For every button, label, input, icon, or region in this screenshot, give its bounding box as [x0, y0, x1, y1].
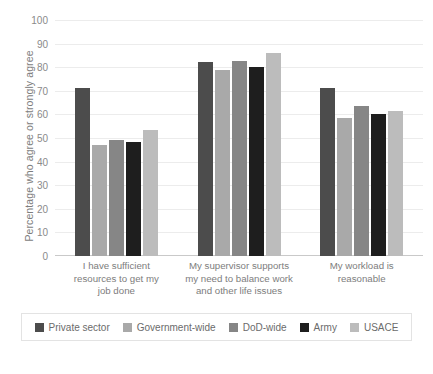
- legend-swatch-icon: [123, 323, 132, 332]
- y-axis-tick-label: 70: [37, 85, 48, 96]
- legend-item[interactable]: Army: [300, 322, 337, 333]
- bar: [92, 145, 107, 256]
- bar-group: [300, 20, 423, 256]
- legend-swatch-icon: [350, 323, 359, 332]
- bar: [249, 67, 264, 256]
- bar: [320, 88, 335, 256]
- y-axis-tick-label: 50: [37, 133, 48, 144]
- bar: [371, 114, 386, 256]
- y-axis-tick-label: 10: [37, 227, 48, 238]
- legend-label: DoD-wide: [243, 322, 287, 333]
- bar: [109, 140, 124, 256]
- x-axis-category-labels: I have sufficientresources to get myjob …: [55, 260, 423, 298]
- y-axis-tick-label: 40: [37, 156, 48, 167]
- bar-groups: [55, 20, 423, 256]
- bar: [75, 88, 90, 256]
- bar: [388, 111, 403, 256]
- legend-label: Government-wide: [137, 322, 216, 333]
- category-label-line: My supervisor supports: [180, 260, 299, 273]
- category-label-line: my need to balance work: [180, 273, 299, 286]
- x-axis-category-label: I have sufficientresources to get myjob …: [55, 260, 178, 298]
- category-label-line: My workload is: [302, 260, 421, 273]
- legend-label: USACE: [364, 322, 398, 333]
- x-axis-category-label: My supervisor supportsmy need to balance…: [178, 260, 301, 298]
- y-axis-tick-label: 90: [37, 38, 48, 49]
- y-axis-tick-label: 20: [37, 203, 48, 214]
- legend-swatch-icon: [229, 323, 238, 332]
- legend-item[interactable]: Government-wide: [123, 322, 216, 333]
- bar-chart-figure: Percentage who agree or strongly agree 1…: [0, 0, 433, 374]
- legend-swatch-icon: [300, 323, 309, 332]
- bar: [266, 53, 281, 256]
- legend-swatch-icon: [35, 323, 44, 332]
- category-label-line: I have sufficient: [57, 260, 176, 273]
- bar: [354, 106, 369, 256]
- category-label-line: job done: [57, 285, 176, 298]
- y-axis-title: Percentage who agree or strongly agree: [23, 21, 35, 271]
- bar: [215, 70, 230, 256]
- category-label-line: reasonable: [302, 273, 421, 286]
- category-label-line: resources to get my: [57, 273, 176, 286]
- y-axis-tick-label: 60: [37, 109, 48, 120]
- bar: [337, 118, 352, 256]
- legend-label: Army: [314, 322, 337, 333]
- legend-item[interactable]: DoD-wide: [229, 322, 287, 333]
- bar: [126, 142, 141, 256]
- bar: [143, 130, 158, 256]
- legend-item[interactable]: Private sector: [35, 322, 110, 333]
- chart-legend: Private sectorGovernment-wideDoD-wideArm…: [21, 313, 412, 341]
- bar-group: [55, 20, 178, 256]
- legend-item[interactable]: USACE: [350, 322, 398, 333]
- legend-label: Private sector: [49, 322, 110, 333]
- y-axis-tick-label: 100: [31, 15, 48, 26]
- bar: [232, 61, 247, 256]
- plot-area: 1009080706050403020100: [55, 20, 423, 256]
- bar-group: [178, 20, 301, 256]
- y-axis-tick-label: 30: [37, 180, 48, 191]
- bar: [198, 62, 213, 256]
- x-axis-category-label: My workload isreasonable: [300, 260, 423, 298]
- category-label-line: and other life issues: [180, 285, 299, 298]
- y-axis-tick-label: 0: [42, 251, 48, 262]
- y-axis-tick-label: 80: [37, 62, 48, 73]
